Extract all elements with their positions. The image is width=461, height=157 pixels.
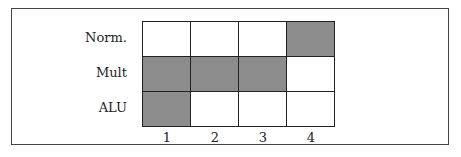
cell-norm-4	[287, 22, 335, 57]
column-label-3: 3	[239, 130, 287, 146]
cell-mult-3	[239, 57, 287, 92]
reservation-table-grid	[142, 21, 335, 127]
row-label-mult: Mult	[37, 65, 127, 81]
cell-mult-1	[143, 57, 191, 92]
cell-alu-1	[143, 92, 191, 127]
cell-alu-4	[287, 92, 335, 127]
column-label-1: 1	[143, 130, 191, 146]
column-label-2: 2	[191, 130, 239, 146]
cell-alu-3	[239, 92, 287, 127]
cell-norm-2	[191, 22, 239, 57]
row-label-alu: ALU	[37, 100, 127, 116]
column-label-4: 4	[287, 130, 335, 146]
cell-mult-2	[191, 57, 239, 92]
row-label-norm: Norm.	[37, 30, 127, 46]
cell-alu-2	[191, 92, 239, 127]
cell-norm-1	[143, 22, 191, 57]
cell-mult-4	[287, 57, 335, 92]
cell-norm-3	[239, 22, 287, 57]
